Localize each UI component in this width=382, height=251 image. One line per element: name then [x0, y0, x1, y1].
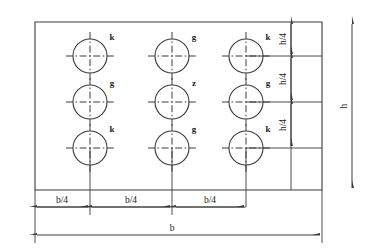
overall-height-dimension: h — [339, 24, 352, 188]
dim-label-h4-bottom: h/4 — [278, 119, 288, 131]
plate-outline-path — [35, 22, 322, 190]
hole-r1c1-label: k — [109, 32, 114, 42]
hole-r1c3-label: k — [265, 32, 270, 42]
hole-group — [66, 32, 270, 172]
hole-r3c2-label: g — [192, 124, 197, 134]
hole-r1c2[interactable] — [148, 32, 196, 80]
hole-r2c2-label: z — [192, 78, 196, 88]
hole-r2c1[interactable] — [66, 78, 114, 126]
overall-width-dimension: b — [37, 223, 320, 235]
hole-r1c2-label: g — [192, 32, 197, 42]
hole-r3c1-label: k — [109, 124, 114, 134]
drawing-svg: kgkgzgkgk h/4 h/4 h/4 h — [0, 0, 382, 251]
hole-r2c2[interactable] — [148, 78, 196, 126]
vertical-dimension-chain: h/4 h/4 h/4 — [278, 22, 291, 190]
hole-r1c1[interactable] — [66, 32, 114, 80]
dim-label-h4-middle: h/4 — [278, 73, 288, 85]
horizontal-dimension-chain: b/4 b/4 b/4 — [35, 195, 246, 207]
dim-label-h-overall: h — [339, 103, 349, 108]
technical-drawing-canvas: kgkgzgkgk h/4 h/4 h/4 h — [0, 0, 382, 251]
hole-r2c3-label: g — [266, 78, 271, 88]
dim-label-b4-center: b/4 — [125, 195, 137, 205]
dim-label-b4-right: b/4 — [204, 195, 216, 205]
dim-label-h4-top: h/4 — [278, 33, 288, 45]
hole-r2c1-label: g — [110, 78, 115, 88]
dim-label-b4-left: b/4 — [56, 195, 68, 205]
hole-r3c3-label: k — [265, 124, 270, 134]
bottom-extension-lines — [35, 148, 322, 243]
plate-outline — [35, 22, 322, 190]
right-leader-lines — [246, 56, 322, 148]
dim-label-b-overall: b — [170, 223, 175, 233]
